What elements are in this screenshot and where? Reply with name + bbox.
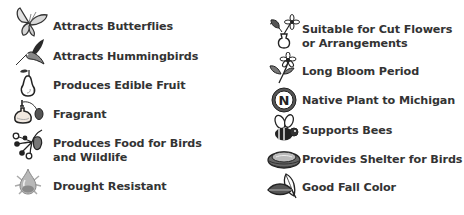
legend-label: Attracts Hummingbirds (53, 50, 198, 63)
water-drop-icon (13, 166, 43, 196)
legend-label: Good Fall Color (302, 181, 396, 194)
legend-label: Supports Bees (302, 124, 392, 137)
perfume-bottle-icon (13, 98, 45, 126)
legend-label: Suitable for Cut Flowers (302, 23, 452, 36)
legend-label: Attracts Butterflies (53, 20, 173, 33)
bird-nest-icon (266, 147, 302, 171)
legend-label: Fragrant (53, 108, 107, 121)
flower-stem-icon (268, 52, 300, 84)
legend-label: Produces Food for Birds (53, 137, 202, 150)
native-n-badge-icon: N (271, 87, 297, 113)
flower-vase-icon (268, 14, 302, 50)
legend-label: Provides Shelter for Birds (302, 153, 462, 166)
legend-label: Produces Edible Fruit (53, 79, 185, 92)
svg-text:N: N (279, 93, 290, 108)
bee-icon (271, 114, 301, 144)
butterfly-icon (14, 6, 48, 38)
hummingbird-icon (12, 37, 46, 67)
legend-label: or Arrangements (302, 37, 408, 50)
berries-icon (12, 128, 44, 160)
legend-label: Long Bloom Period (302, 65, 419, 78)
legend-label: and Wildlife (53, 151, 127, 164)
pear-icon (16, 66, 40, 98)
legend-label: Native Plant to Michigan (302, 94, 455, 107)
legend-label: Drought Resistant (53, 180, 167, 193)
leaves-icon (266, 172, 300, 200)
